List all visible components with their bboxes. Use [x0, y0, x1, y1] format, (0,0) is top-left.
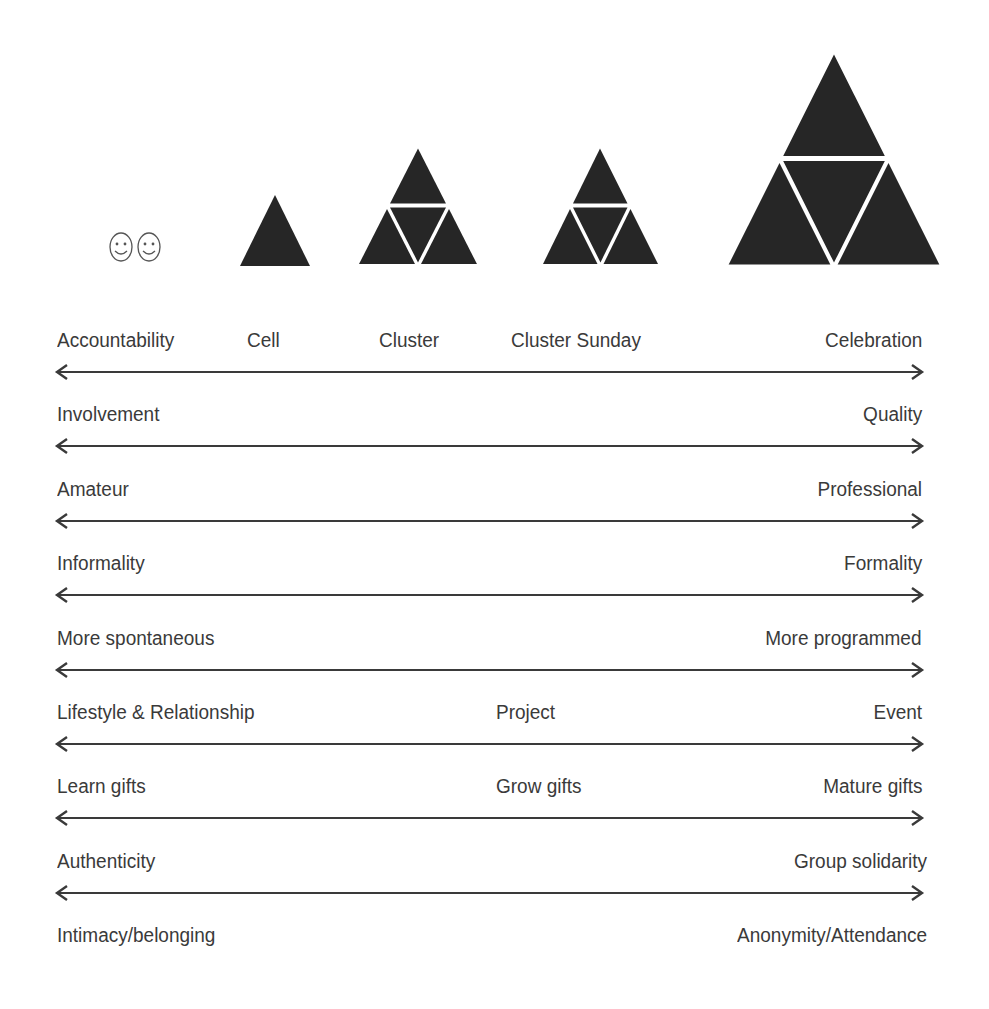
double-arrow [57, 811, 922, 825]
spectrum-left-label: Authenticity [57, 849, 155, 873]
spectrum-left-label: Learn gifts [57, 774, 146, 798]
double-arrow [57, 514, 922, 528]
scale-header-cell: Cell [247, 328, 280, 352]
spectrum-left-label: Intimacy/belonging [57, 923, 215, 947]
spectrum-middle-label: Project [496, 700, 555, 724]
spectrum-right-label: Formality [844, 551, 922, 575]
spectrum-right-label: Professional [817, 477, 922, 501]
spectrum-right-label: Anonymity/Attendance [737, 923, 927, 947]
scale-header-accountability: Accountability [57, 328, 174, 352]
spectrum-left-label: Amateur [57, 477, 129, 501]
spectrum-left-label: More spontaneous [57, 626, 214, 650]
spectrum-middle-label: Grow gifts [496, 774, 582, 798]
spectrum-diagram: AccountabilityCellClusterCluster SundayC… [0, 0, 989, 1009]
scale-header-cluster: Cluster [379, 328, 439, 352]
spectrum-right-label: Mature gifts [823, 774, 922, 798]
spectrum-right-label: Event [873, 700, 922, 724]
double-arrow [57, 439, 922, 453]
double-arrow [57, 737, 922, 751]
double-arrow [57, 588, 922, 602]
double-arrow [57, 365, 922, 379]
scale-header-celebration: Celebration [825, 328, 922, 352]
double-arrow [57, 663, 922, 677]
spectrum-left-label: Informality [57, 551, 145, 575]
spectrum-left-label: Lifestyle & Relationship [57, 700, 254, 724]
spectrum-left-label: Involvement [57, 402, 159, 426]
scale-header-cluster-sunday: Cluster Sunday [511, 328, 641, 352]
spectrum-right-label: More programmed [766, 626, 922, 650]
spectrum-right-label: Group solidarity [794, 849, 927, 873]
spectrum-right-label: Quality [863, 402, 922, 426]
double-arrow [57, 886, 922, 900]
